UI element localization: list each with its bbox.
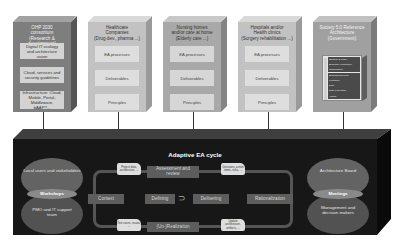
item-principles: Principles [95,94,139,110]
box-side-face [221,16,227,112]
reference-architecture-stack: Strategy & Policy Business Architecture … [322,55,362,101]
item-deliverables: Deliverables [245,70,289,86]
box-side-face [296,16,302,112]
connector-line [43,112,44,130]
stage-realization: (Un-)Realization [147,222,199,232]
item-infrastructure: Infrastructure: Cloud, Mobile, Portal, M… [20,91,64,109]
stack-body: Strategy & Policy Business Architecture … [322,55,362,101]
connector-line [268,112,269,130]
stage-delivering: Delivering [193,194,229,204]
stage-rationalization: Rationalization [247,194,293,204]
item-principles: Principles [170,94,214,110]
ref-layer: Assets [328,94,360,99]
label-architecture-board: Architecture Board [305,168,371,173]
platform-side-face [377,129,391,235]
column-title: Nursing homes and/or care at home (Elder… [163,25,221,41]
box-front-face: Healthcare Companies (Drug dev., pharma … [88,22,146,112]
note-test-cases: Test cases, issues, ... [117,219,141,231]
label-meetings: Meetings [313,189,363,199]
connector-line [118,112,119,130]
box-front-face: OHP 2030 consortium (Research & developm… [13,22,71,112]
column-title: Hospitals and/or Health clinics (Surgery… [238,25,296,41]
column-nursing-homes: Nursing homes and/or care at home (Elder… [163,16,226,112]
box-front-face: Nursing homes and/or care at home (Elder… [163,22,221,112]
column-title: Society 5.0 Reference Architecture (Gove… [313,25,371,41]
column-healthcare-companies: Healthcare Companies (Drug dev., pharma … [88,16,151,112]
platform-front-face: Adaptive EA cycle Local users and stakeh… [13,139,377,235]
column-ohp-2030: OHP 2030 consortium (Research & developm… [13,16,76,112]
item-ea-processes: EA processes [245,46,289,62]
box-side-face [146,16,152,112]
adaptive-ea-platform: Adaptive EA cycle Local users and stakeh… [13,129,391,235]
item-ea-processes: EA processes [170,46,214,62]
note-update-architecture: Update architecture, artifacts, ... [221,219,245,231]
stack-side-face [362,55,367,101]
box-front-face: Hospitals and/or Health clinics (Surgery… [238,22,296,112]
cycle-swirl-icon: ⊃ [178,194,186,203]
column-society-5-reference: Society 5.0 Reference Architecture (Gove… [313,16,376,112]
column-title: Healthcare Companies (Drug dev., pharma … [88,25,146,41]
label-management: Management and decision makers [305,205,371,216]
connector-line [193,112,194,130]
label-pmo: PMO and IT support team [19,207,85,218]
column-hospitals: Hospitals and/or Health clinics (Surgery… [238,16,301,112]
note-decisions: Decisions, action items, risks, ... [221,163,245,175]
item-it-ecology: Digital IT ecology and architecture visi… [20,43,64,59]
item-principles: Principles [245,94,289,110]
platform-top-face [13,129,391,139]
item-deliverables: Deliverables [170,70,214,86]
stage-context: Context [88,194,124,204]
venn-workshops: Local users and stakeholders Workshops P… [19,158,85,240]
box-side-face [71,16,77,112]
label-workshops: Workshops [27,189,77,199]
box-side-face [371,16,377,112]
item-ea-processes: EA processes [95,46,139,62]
stage-assessment-review: Assessment and review [147,166,199,178]
cycle-title: Adaptive EA cycle [13,151,377,158]
connector-line [343,112,344,130]
stage-defining: Defining [145,194,175,204]
item-deliverables: Deliverables [95,70,139,86]
item-cloud-services: Cloud, services and security guidelines [20,67,64,83]
stack-axis [324,58,327,100]
note-project-data: Project data, architecture, ... [117,163,141,175]
venn-meetings: Architecture Board Meetings Management a… [305,158,371,240]
box-front-face: Society 5.0 Reference Architecture (Gove… [313,22,371,112]
label-local-users: Local users and stakeholders [19,168,85,173]
